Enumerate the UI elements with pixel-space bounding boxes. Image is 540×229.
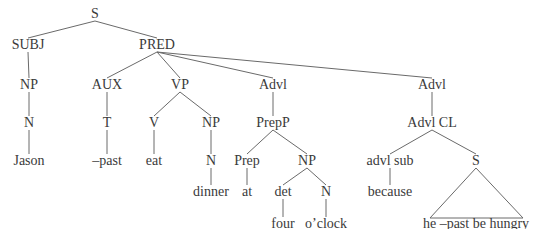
tree-edge [28, 21, 95, 38]
tree-node-because: because [368, 185, 412, 199]
tree-node-oclock: o’clock [305, 217, 347, 229]
tree-node-s2: S [472, 154, 480, 168]
tree-node-past: –past [92, 154, 122, 168]
tree-edge [28, 52, 29, 78]
tree-node-n1: N [24, 116, 34, 130]
tree-node-prep: Prep [234, 154, 260, 168]
tree-edge [180, 92, 211, 116]
tree-node-np2: NP [202, 116, 220, 130]
tree-node-n2: N [206, 154, 216, 168]
tree-node-advlcl: Advl CL [407, 116, 456, 130]
tree-node-vp: VP [171, 78, 189, 92]
tree-node-v: V [149, 116, 159, 130]
tree-node-advl1: Advl [259, 78, 287, 92]
tree-triangle-abbreviation [430, 168, 523, 218]
tree-node-det: det [274, 185, 291, 199]
tree-node-aux: AUX [92, 78, 122, 92]
tree-edge [390, 130, 432, 154]
tree-node-advlsub: advl sub [366, 154, 413, 168]
tree-edge [107, 52, 157, 78]
tree-edge [283, 168, 307, 185]
tree-edge [307, 168, 326, 185]
tree-node-s: S [91, 7, 99, 21]
tree-node-t: T [103, 116, 112, 130]
tree-node-eat: eat [146, 154, 162, 168]
tree-node-pred: PRED [139, 38, 175, 52]
tree-edge [95, 21, 157, 38]
tree-edge [273, 130, 307, 154]
tree-node-prepp: PrepP [256, 116, 289, 130]
tree-edge [247, 130, 273, 154]
tree-edge [157, 52, 273, 78]
tree-node-np1: NP [20, 78, 38, 92]
syntax-tree-diagram: SSUBJPREDNPNJasonAUXT–pastVPVeatNPNdinne… [0, 0, 540, 229]
tree-node-n3: N [321, 185, 331, 199]
tree-node-four: four [271, 217, 294, 229]
tree-node-subj: SUBJ [12, 38, 45, 52]
tree-node-hungry: he –past be hungry [423, 217, 529, 229]
tree-edge [154, 92, 180, 116]
tree-node-dinner: dinner [193, 185, 229, 199]
tree-node-jason: Jason [13, 154, 44, 168]
tree-node-np3: NP [298, 154, 316, 168]
tree-node-advl2: Advl [418, 78, 446, 92]
tree-edge [432, 130, 476, 154]
tree-node-at: at [242, 185, 252, 199]
tree-edge [157, 52, 432, 78]
